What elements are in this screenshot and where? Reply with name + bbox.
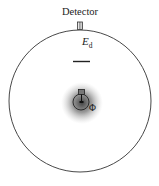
detector-icon — [78, 22, 83, 30]
detector-label: Detector — [60, 6, 100, 17]
diagram-canvas — [0, 0, 159, 186]
flux-label: Φ — [89, 103, 96, 113]
energy-label: Ed — [82, 35, 92, 50]
energy-label-sub: d — [89, 41, 93, 50]
energy-label-main: E — [82, 35, 89, 47]
